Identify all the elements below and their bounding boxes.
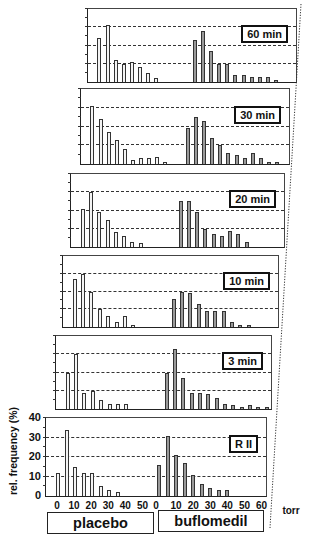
y-tick-label: 40 [27,411,41,423]
y-tick-label: 10 [27,470,41,482]
y-tick-label: 30 [27,431,41,443]
y-tick-label: 0 [27,489,41,501]
perspective-dotted-line [0,0,313,539]
y-tick-label: 20 [27,450,41,462]
